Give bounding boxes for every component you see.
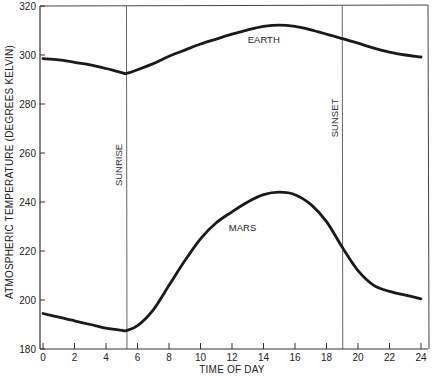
x-tick-label: 10 [195, 352, 207, 363]
y-tick-label: 320 [19, 1, 36, 12]
x-tick-label: 6 [135, 352, 141, 363]
x-tick-label: 2 [72, 352, 78, 363]
y-tick-label: 180 [19, 344, 36, 355]
x-tick-label: 22 [384, 352, 396, 363]
x-tick-label: 18 [321, 352, 333, 363]
y-tick-label: 300 [19, 50, 36, 61]
x-tick-label: 0 [40, 352, 46, 363]
x-tick-label: 4 [103, 352, 109, 363]
sunrise-label: SUNRISE [113, 144, 124, 186]
day-markers: SUNRISESUNSET [113, 6, 342, 349]
mars-curve [43, 192, 421, 331]
y-axis-title: ATMOSPHERIC TEMPERATURE (DEGREES KELVIN) [4, 45, 15, 299]
y-tick-label: 260 [19, 148, 36, 159]
plot-frame [40, 5, 429, 349]
right-border [428, 5, 429, 349]
sunset-line [342, 6, 343, 349]
y-tick-label: 200 [19, 295, 36, 306]
y-axis: 180200220240260280300320 [19, 1, 45, 355]
y-tick-label: 220 [19, 246, 36, 257]
temperature-chart: 180200220240260280300320 024681012141618… [0, 0, 438, 380]
top-border [40, 5, 428, 6]
x-tick-label: 16 [289, 352, 301, 363]
series-labels: EARTHMARS [229, 34, 280, 234]
x-tick-label: 24 [415, 352, 427, 363]
sunrise-line [126, 6, 127, 349]
series-lines [43, 25, 421, 331]
x-tick-label: 12 [226, 352, 238, 363]
x-axis: 024681012141618202224 [40, 343, 427, 363]
mars-label: MARS [229, 222, 256, 233]
x-tick-label: 14 [258, 352, 270, 363]
x-axis-title: TIME OF DAY [199, 364, 264, 375]
x-tick-label: 20 [352, 352, 364, 363]
y-tick-label: 240 [19, 197, 36, 208]
x-tick-label: 8 [166, 352, 172, 363]
sunset-label: SUNSET [329, 99, 340, 138]
earth-curve [43, 25, 421, 74]
earth-label: EARTH [248, 34, 280, 45]
y-tick-label: 280 [19, 99, 36, 110]
